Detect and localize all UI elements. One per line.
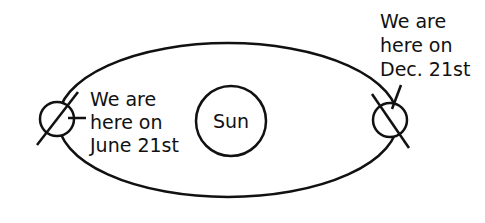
december-line-2: here on — [380, 34, 453, 56]
june-line-2: here on — [90, 111, 163, 133]
sun-label: Sun — [213, 110, 249, 132]
june-label: We are here on June 21st — [89, 88, 179, 156]
december-label: We are here on Dec. 21st — [380, 10, 470, 80]
earth-orbit-diagram: Sun We are here on June 21st We are here… — [0, 0, 485, 223]
june-line-3: June 21st — [89, 134, 179, 156]
earth-december — [372, 85, 409, 148]
december-line-1: We are — [380, 10, 446, 32]
june-line-1: We are — [90, 88, 156, 110]
december-line-3: Dec. 21st — [380, 58, 470, 80]
